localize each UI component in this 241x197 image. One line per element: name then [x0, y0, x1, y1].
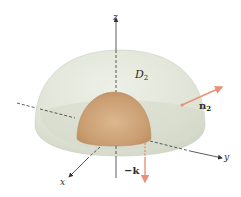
n2-label: n2 — [199, 101, 211, 112]
region-label: D2 — [135, 69, 148, 82]
x-axis-label: x — [60, 178, 65, 187]
y-axis-label: y — [224, 153, 229, 162]
hemisphere-diagram: z y x D2 n2 −k — [0, 0, 241, 197]
n2-label-sub: 2 — [206, 104, 211, 113]
neg-k-label: −k — [124, 166, 139, 176]
x-axis — [69, 158, 88, 177]
y-axis — [190, 151, 222, 158]
z-axis-label: z — [113, 13, 118, 22]
region-label-main: D — [135, 68, 144, 81]
diagram-canvas — [0, 0, 241, 197]
region-label-sub: 2 — [144, 74, 148, 82]
